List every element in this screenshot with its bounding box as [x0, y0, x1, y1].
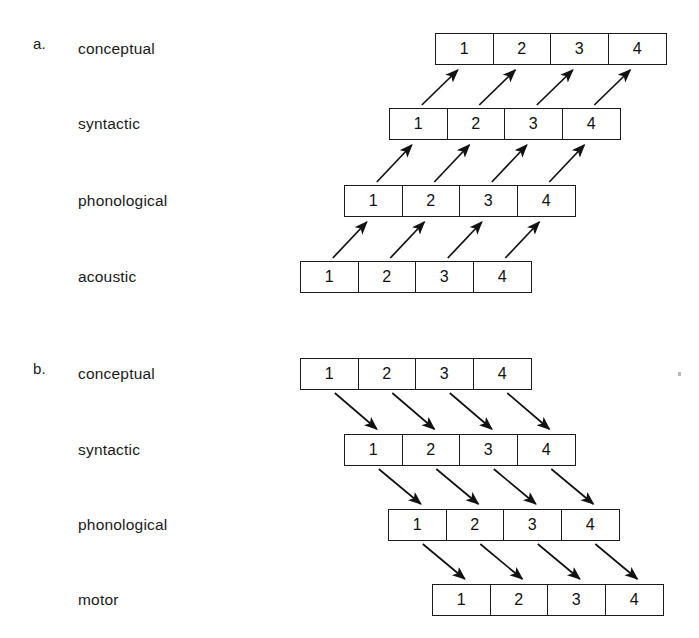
panel-a-chain-conceptual: 1 2 3 4: [435, 33, 667, 65]
arrow-layer: [0, 0, 699, 638]
cell: 3: [504, 510, 562, 540]
scan-artifact-speck: [678, 372, 681, 376]
cell: 2: [491, 585, 549, 615]
cell: 3: [551, 34, 609, 64]
cell: 3: [460, 186, 518, 216]
panel-b-row-label-phonological: phonological: [78, 516, 167, 534]
cell: 4: [562, 510, 620, 540]
cell: 2: [494, 34, 552, 64]
cell: 1: [390, 109, 448, 139]
panel-a-row-label-acoustic: acoustic: [78, 268, 136, 286]
cell: 1: [301, 359, 359, 389]
panel-a-letter: a.: [33, 35, 46, 52]
cell: 3: [416, 262, 474, 292]
cell: 1: [345, 186, 403, 216]
cell: 2: [403, 435, 461, 465]
cell: 4: [609, 34, 667, 64]
panel-b-row-label-syntactic: syntactic: [78, 441, 140, 459]
cell: 4: [563, 109, 621, 139]
cell: 4: [474, 262, 532, 292]
cell: 2: [359, 359, 417, 389]
panel-a-row-label-phonological: phonological: [78, 192, 167, 210]
cell: 1: [389, 510, 447, 540]
panel-b-chain-conceptual: 1 2 3 4: [300, 358, 532, 390]
panel-b-chain-phonological: 1 2 3 4: [388, 509, 620, 541]
panel-a-chain-acoustic: 1 2 3 4: [300, 261, 532, 293]
panel-a-row-label-conceptual: conceptual: [78, 40, 155, 58]
panel-b-row-label-conceptual: conceptual: [78, 365, 155, 383]
panel-a-chain-syntactic: 1 2 3 4: [389, 108, 621, 140]
panel-a-row-label-syntactic: syntactic: [78, 115, 140, 133]
cell: 1: [436, 34, 494, 64]
cell: 1: [345, 435, 403, 465]
cell: 2: [403, 186, 461, 216]
cell: 2: [447, 510, 505, 540]
cell: 2: [359, 262, 417, 292]
cell: 4: [606, 585, 664, 615]
cell: 1: [301, 262, 359, 292]
panel-b-row-label-motor: motor: [78, 591, 119, 609]
cell: 4: [518, 435, 576, 465]
cell: 4: [518, 186, 576, 216]
figure-canvas: a. conceptual syntactic phonological aco…: [0, 0, 699, 638]
panel-a-chain-phonological: 1 2 3 4: [344, 185, 576, 217]
panel-b-chain-syntactic: 1 2 3 4: [344, 434, 576, 466]
cell: 3: [548, 585, 606, 615]
panel-b-chain-motor: 1 2 3 4: [432, 584, 664, 616]
cell: 3: [505, 109, 563, 139]
panel-b-letter: b.: [33, 360, 46, 377]
cell: 4: [474, 359, 532, 389]
cell: 3: [416, 359, 474, 389]
cell: 1: [433, 585, 491, 615]
cell: 3: [460, 435, 518, 465]
cell: 2: [448, 109, 506, 139]
